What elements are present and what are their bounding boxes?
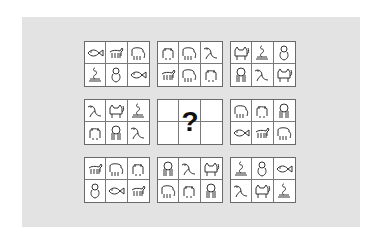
panel-cell: [106, 42, 127, 64]
fish-icon: [232, 124, 250, 142]
puzzle-panel: [157, 157, 223, 203]
horse-icon: [253, 124, 271, 142]
panel-cell: [85, 180, 106, 202]
bear-icon: [202, 66, 220, 84]
panel-cell: [252, 100, 273, 122]
bear-icon: [180, 182, 198, 200]
panel-cell: [85, 42, 106, 64]
cat-icon: [202, 160, 220, 178]
cat-icon: [253, 182, 271, 200]
panel-cell: [158, 64, 179, 86]
panel-cell: [179, 180, 200, 202]
bird-icon: [129, 124, 147, 142]
lion-icon: [107, 124, 125, 142]
bird-icon: [86, 102, 104, 120]
fish-icon: [86, 44, 104, 62]
snake-icon: [275, 182, 293, 200]
panel-cell: [158, 42, 179, 64]
horse-icon: [159, 66, 177, 84]
monkey-icon: [275, 44, 293, 62]
elephant-icon: [275, 124, 293, 142]
snake-icon: [86, 66, 104, 84]
snake-icon: [129, 102, 147, 120]
panel-cell: [179, 100, 200, 122]
fish-icon: [275, 160, 293, 178]
snake-icon: [253, 44, 271, 62]
bird-icon: [180, 160, 198, 178]
panel-cell: [231, 122, 252, 144]
elephant-icon: [180, 44, 198, 62]
monkey-icon: [86, 182, 104, 200]
bird-icon: [202, 44, 220, 62]
puzzle-panel: [157, 41, 223, 87]
panel-cell: [231, 100, 252, 122]
panel-cell: [158, 180, 179, 202]
monkey-icon: [107, 66, 125, 84]
cat-icon: [232, 44, 250, 62]
panel-cell: [252, 158, 273, 180]
bird-icon: [232, 182, 250, 200]
panel-cell: [201, 158, 222, 180]
panel-cell: [179, 64, 200, 86]
panel-cell: [106, 180, 127, 202]
elephant-icon: [107, 160, 125, 178]
missing-panel[interactable]: ?: [157, 99, 223, 145]
panel-cell: [274, 64, 295, 86]
elephant-icon: [159, 182, 177, 200]
panel-cell: [158, 158, 179, 180]
cat-icon: [107, 102, 125, 120]
panel-cell: [128, 42, 149, 64]
lion-icon: [159, 160, 177, 178]
elephant-icon: [180, 66, 198, 84]
puzzle-panel: [84, 99, 150, 145]
panel-cell: [201, 64, 222, 86]
panel-cell: [106, 158, 127, 180]
elephant-icon: [232, 102, 250, 120]
cat-icon: [275, 66, 293, 84]
panel-cell: [201, 180, 222, 202]
panel-cell: [252, 64, 273, 86]
panel-cell: [85, 122, 106, 144]
panel-cell: [179, 42, 200, 64]
panel-cell: [231, 180, 252, 202]
lion-icon: [275, 102, 293, 120]
snake-icon: [232, 160, 250, 178]
puzzle-panel: [84, 41, 150, 87]
panel-cell: [201, 42, 222, 64]
panel-cell: [106, 64, 127, 86]
puzzle-panel: [230, 99, 296, 145]
puzzle-board: ?: [22, 17, 360, 227]
panel-cell: [106, 122, 127, 144]
panel-cell: [179, 122, 200, 144]
panel-cell: [85, 158, 106, 180]
panel-cell: [252, 42, 273, 64]
panel-cell: [128, 180, 149, 202]
panel-cell: [231, 64, 252, 86]
bear-icon: [129, 160, 147, 178]
bear-icon: [253, 102, 271, 120]
puzzle-panel: [230, 157, 296, 203]
lion-icon: [202, 182, 220, 200]
fish-icon: [129, 66, 147, 84]
panel-cell: [106, 100, 127, 122]
fish-icon: [107, 182, 125, 200]
panel-cell: [128, 64, 149, 86]
panel-cell: [274, 122, 295, 144]
panel-cell: [158, 122, 179, 144]
panel-cell: [252, 122, 273, 144]
panel-cell: [128, 122, 149, 144]
panel-cell: [85, 64, 106, 86]
panel-cell: [85, 100, 106, 122]
horse-icon: [86, 160, 104, 178]
panel-cell: [231, 42, 252, 64]
panel-cell: [274, 180, 295, 202]
panel-cell: [274, 42, 295, 64]
horse-icon: [129, 182, 147, 200]
panel-cell: [128, 100, 149, 122]
panel-cell: [274, 100, 295, 122]
puzzle-panel: [230, 41, 296, 87]
panel-cell: [231, 158, 252, 180]
bird-icon: [253, 66, 271, 84]
lion-icon: [232, 66, 250, 84]
panel-cell: [201, 100, 222, 122]
